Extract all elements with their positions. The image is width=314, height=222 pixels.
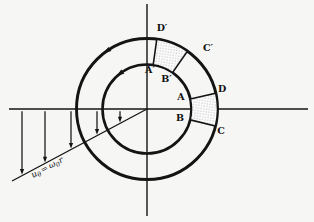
label-c-prime: C′ xyxy=(203,42,214,53)
rotation-diagram: D′ C′ A′ B′ D C A B uθ=ω0r xyxy=(0,0,314,222)
label-d-prime: D′ xyxy=(157,22,168,33)
label-d: D xyxy=(218,83,226,94)
diagram-background xyxy=(0,0,314,222)
label-c: C xyxy=(217,125,225,136)
rotation-diagram-canvas: D′ C′ A′ B′ D C A B uθ=ω0r xyxy=(0,0,314,222)
label-a-prime: A′ xyxy=(144,64,155,75)
label-b-prime: B′ xyxy=(161,73,172,84)
label-a: A xyxy=(176,91,185,102)
label-b: B xyxy=(176,112,184,123)
fluid-element-abcd-sector xyxy=(190,93,217,126)
